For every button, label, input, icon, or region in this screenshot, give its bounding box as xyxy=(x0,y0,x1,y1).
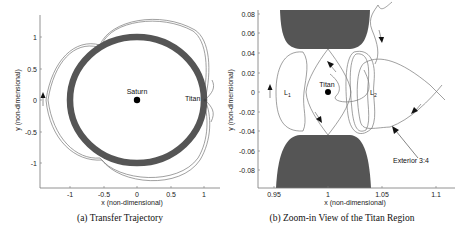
panel-a-y-axis-label: y (non-dimensional) xyxy=(14,69,22,130)
y-tick-label: -0.06 xyxy=(239,148,255,155)
x-tick-label: 1.05 xyxy=(375,191,389,198)
y-tick-label: -0.08 xyxy=(239,167,255,174)
saturn-label: Saturn xyxy=(127,88,148,95)
forbidden-region-lower xyxy=(276,135,371,188)
y-tick-label: 0.04 xyxy=(241,50,255,57)
panel-a-x-axis-label: x (non-dimensional) xyxy=(101,199,162,207)
arrow-up-icon xyxy=(268,84,273,98)
y-tick-label: -0.04 xyxy=(239,128,255,135)
x-tick-label: 0 xyxy=(135,191,139,198)
l1-orbit xyxy=(276,52,307,131)
panel-a-transfer-trajectory: 1 0.5 0 -0.5 -1 -1 -0.5 0 0.5 1 x (non-d… xyxy=(14,15,220,224)
panel-b-titan-zoom: 0.08 0.06 0.04 0.02 0 -0.02 -0.04 -0.06 … xyxy=(227,2,455,224)
l2-label: L2 xyxy=(370,89,377,98)
l1-manifold-right xyxy=(328,49,351,135)
x-tick-label: 1.1 xyxy=(431,191,441,198)
direction-arrow-icon xyxy=(41,92,46,106)
panel-b-y-ticks: 0.08 0.06 0.04 0.02 0 -0.02 -0.04 -0.06 … xyxy=(239,11,260,174)
l2-orbit-inner xyxy=(350,54,369,131)
x-tick-label: 1 xyxy=(326,191,330,198)
titan-label: Titan xyxy=(185,95,200,102)
incoming-trajectory xyxy=(370,5,378,64)
y-tick-label: 0 xyxy=(251,89,255,96)
panel-b-y-axis-label: y (non-dimensional) xyxy=(227,69,235,130)
y-tick-label: -1 xyxy=(31,160,37,167)
exterior-3-4-label: Exterior 3:4 xyxy=(393,157,429,164)
y-tick-label: 0.08 xyxy=(241,11,255,18)
titan-point xyxy=(204,99,207,102)
x-tick-label: 1 xyxy=(202,191,206,198)
arrow-up-left-icon xyxy=(327,61,336,72)
titan-label: Titan xyxy=(319,81,334,88)
y-tick-label: 1 xyxy=(33,34,37,41)
saturn-point xyxy=(134,97,140,103)
y-tick-label: 0.5 xyxy=(27,66,37,73)
y-tick-label: -0.5 xyxy=(25,129,37,136)
y-tick-label: 0.02 xyxy=(241,70,255,77)
exterior-arc-upper xyxy=(366,59,445,100)
y-tick-label: 0 xyxy=(33,97,37,104)
exterior-pointer-arrow-icon xyxy=(392,126,418,158)
panel-a-y-ticks: 1 0.5 0 -0.5 -1 xyxy=(25,34,42,167)
forbidden-region-upper xyxy=(280,10,370,49)
x-tick-label: 0.95 xyxy=(267,191,281,198)
panel-b-x-axis-label: x (non-dimensional) xyxy=(324,199,385,207)
panel-b-caption: (b) Zoom-in View of the Titan Region xyxy=(270,213,415,224)
x-tick-label: 0.5 xyxy=(166,191,176,198)
x-tick-label: -0.5 xyxy=(98,191,110,198)
figure: 1 0.5 0 -0.5 -1 -1 -0.5 0 0.5 1 x (non-d… xyxy=(0,0,455,235)
y-tick-label: -0.02 xyxy=(239,109,255,116)
l1-manifold-left xyxy=(306,49,328,135)
l1-label: L1 xyxy=(284,89,291,98)
incoming-trajectory-tail xyxy=(378,2,392,9)
titan-point xyxy=(325,89,331,95)
y-tick-label: 0.06 xyxy=(241,30,255,37)
x-tick-label: -1 xyxy=(67,191,73,198)
arrow-down-right-icon xyxy=(379,30,385,43)
panel-a-caption: (a) Transfer Trajectory xyxy=(77,213,163,224)
